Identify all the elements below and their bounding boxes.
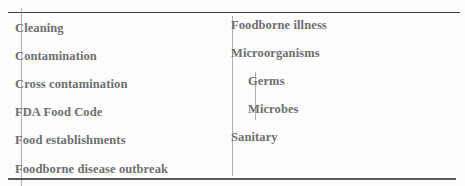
term-contamination: Contamination	[15, 49, 97, 64]
term-cross-contamination: Cross contamination	[15, 77, 127, 92]
term-fda-food-code: FDA Food Code	[15, 105, 102, 120]
term-food-establishments: Food establishments	[15, 133, 126, 148]
term-foodborne-illness: Foodborne illness	[231, 18, 327, 33]
term-microbes: Microbes	[248, 102, 299, 117]
term-foodborne-disease-outbreak: Foodborne disease outbreak	[15, 162, 168, 177]
document-page: Cleaning Contamination Cross contaminati…	[0, 0, 465, 186]
term-sanitary: Sanitary	[231, 130, 278, 145]
term-germs: Germs	[248, 74, 285, 89]
pencil-mark-right	[232, 16, 233, 176]
bottom-rule-divider	[8, 178, 456, 180]
term-microorganisms: Microorganisms	[231, 46, 320, 61]
top-rule-divider	[8, 12, 460, 13]
term-cleaning: Cleaning	[15, 21, 64, 36]
